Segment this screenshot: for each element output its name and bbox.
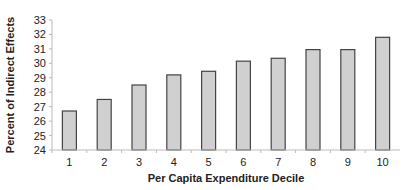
y-tick-label: 28: [34, 86, 46, 98]
x-tick-label: 2: [101, 156, 107, 168]
y-tick-label: 33: [34, 14, 46, 26]
bar-decile-1: [62, 111, 76, 150]
bar-decile-9: [341, 50, 355, 150]
x-tick-label: 1: [66, 156, 72, 168]
bar-decile-10: [376, 37, 390, 150]
bar-decile-2: [97, 99, 111, 150]
y-tick-label: 27: [34, 101, 46, 113]
x-axis-title: Per Capita Expenditure Decile: [148, 172, 305, 184]
y-tick-label: 32: [34, 28, 46, 40]
x-tick-label: 6: [240, 156, 246, 168]
y-tick-label: 29: [34, 72, 46, 84]
x-tick-label: 9: [345, 156, 351, 168]
bars: [62, 37, 389, 150]
bar-chart: 24252627282930313233 12345678910 Per Cap…: [0, 0, 412, 190]
y-tick-label: 31: [34, 43, 46, 55]
x-axis-ticks: 12345678910: [52, 150, 389, 168]
bar-decile-6: [236, 61, 250, 150]
y-tick-label: 26: [34, 115, 46, 127]
bar-decile-3: [132, 85, 146, 150]
y-axis-title: Percent of Indirect Effects: [4, 17, 16, 153]
bar-decile-4: [167, 75, 181, 150]
y-tick-label: 24: [34, 144, 46, 156]
x-tick-label: 3: [136, 156, 142, 168]
bar-decile-7: [271, 58, 285, 150]
bar-decile-5: [202, 71, 216, 150]
x-tick-label: 5: [206, 156, 212, 168]
y-axis-ticks: 24252627282930313233: [34, 14, 52, 156]
bar-decile-8: [306, 50, 320, 150]
y-tick-label: 25: [34, 130, 46, 142]
x-tick-label: 4: [171, 156, 177, 168]
x-tick-label: 7: [275, 156, 281, 168]
x-tick-label: 10: [376, 156, 388, 168]
x-tick-label: 8: [310, 156, 316, 168]
y-tick-label: 30: [34, 57, 46, 69]
